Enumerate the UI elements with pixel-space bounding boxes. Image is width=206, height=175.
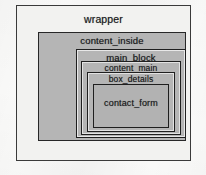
- box-label-contact-form: contact_form: [94, 98, 168, 108]
- box-contact-form: contact_form: [93, 84, 169, 128]
- box-wrapper: wrapper content_inside main_block conten…: [16, 5, 191, 161]
- box-label-content-inside: content_inside: [39, 35, 185, 46]
- box-label-box-details: box_details: [88, 74, 174, 84]
- box-label-wrapper: wrapper: [17, 13, 190, 25]
